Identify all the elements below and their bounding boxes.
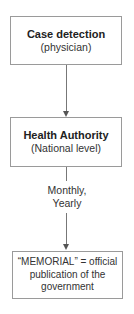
connector-line xyxy=(66,167,67,181)
arrowhead-icon xyxy=(63,244,69,250)
connector-line xyxy=(66,213,67,245)
node-memorial: “MEMORIAL” = official publication of the… xyxy=(12,251,123,299)
edge-label-frequency: Monthly, Yearly xyxy=(0,184,134,209)
node-case-detection: Case detection (physician) xyxy=(10,16,122,65)
node-text-line: publication of the xyxy=(30,269,106,282)
node-title: Health Authority xyxy=(23,129,108,142)
edge-label-line: Monthly, xyxy=(0,184,134,197)
node-text-line: “MEMORIAL” = official xyxy=(18,256,118,269)
node-subtitle: (physician) xyxy=(41,41,92,54)
node-text-line: government xyxy=(41,281,94,294)
node-subtitle: (National level) xyxy=(31,142,101,155)
edge-label-line: Yearly xyxy=(0,197,134,210)
connector-line xyxy=(66,65,67,112)
node-health-authority: Health Authority (National level) xyxy=(10,117,122,167)
node-title: Case detection xyxy=(27,28,105,41)
